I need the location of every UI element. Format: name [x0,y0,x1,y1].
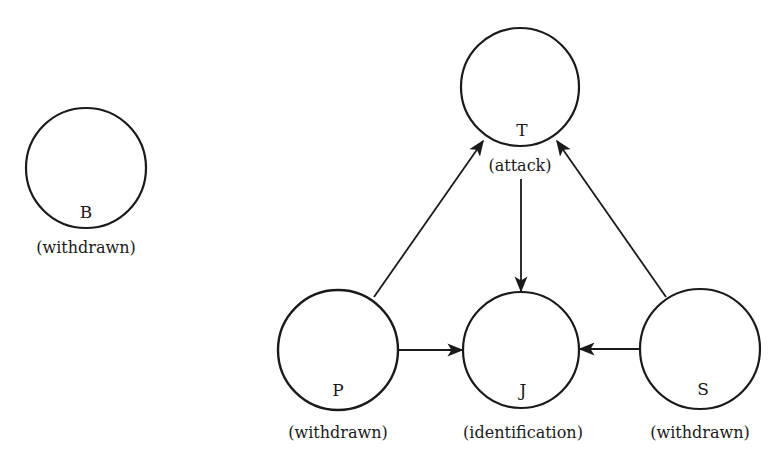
node-s-letter: S [697,379,709,399]
edge-p-to-t-arrow [374,141,483,297]
node-t-letter: T [516,120,528,140]
node-j-role: (identification) [463,423,583,442]
edge-s-to-t-arrow [557,141,666,297]
node-b-letter: B [80,202,93,222]
relationship-diagram: B (withdrawn) T (attack) P (withdrawn) J… [0,0,784,474]
node-t-role: (attack) [488,156,551,175]
node-p-letter: P [332,380,343,400]
node-j-letter: J [518,380,527,400]
node-j: J (identification) [463,292,583,442]
node-p: P (withdrawn) [278,290,398,442]
node-t: T (attack) [461,28,579,175]
node-s-role: (withdrawn) [650,423,749,442]
node-b-role: (withdrawn) [36,238,135,257]
node-b: B (withdrawn) [26,108,146,257]
node-s: S (withdrawn) [640,289,760,442]
node-p-role: (withdrawn) [288,423,387,442]
